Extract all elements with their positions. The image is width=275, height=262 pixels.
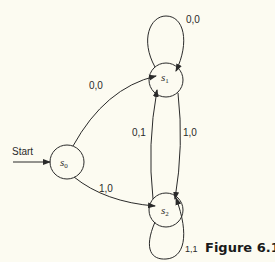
edge-s0-s1-label: 0,0 <box>89 80 103 91</box>
figure-caption: Figure 6.12 <box>205 240 275 255</box>
edge-s2-loop <box>149 198 183 259</box>
edge-s2-s1 <box>151 90 157 199</box>
edge-s0-s2-label: 1,0 <box>99 183 113 194</box>
edge-s1-loop-label: 0,0 <box>186 14 200 25</box>
state-s0-label: s0 <box>60 156 68 170</box>
state-diagram: Start s0 s1 s2 0,0 1,0 0,0 1,0 0,1 1,1 F… <box>0 0 275 262</box>
edge-s1-s2 <box>175 93 180 199</box>
edge-s0-s2 <box>74 177 155 206</box>
edge-s1-s2-label: 1,0 <box>183 127 197 138</box>
state-s2-label: s2 <box>161 204 169 218</box>
start-label: Start <box>12 146 33 157</box>
edge-s2-s1-label: 0,1 <box>132 127 146 138</box>
edge-s2-loop-label: 1,1 <box>185 244 198 254</box>
state-s1-label: s1 <box>161 71 169 85</box>
